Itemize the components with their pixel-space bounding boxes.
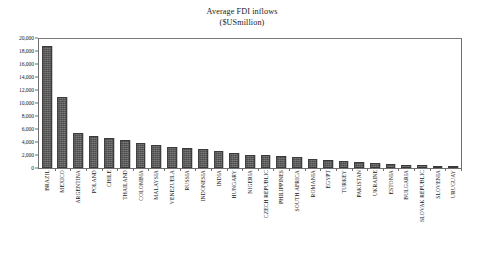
y-axis-tick-label: 18,000: [19, 48, 34, 54]
y-axis-tick-mark: [35, 90, 38, 91]
chart-container: Average FDI inflows ($USmillion) 02,0004…: [0, 0, 484, 255]
bar: [433, 166, 443, 168]
bar-slot: [70, 38, 86, 168]
bar-slot: [305, 38, 321, 168]
chart-title-block: Average FDI inflows ($USmillion): [0, 6, 484, 28]
y-axis-tick-mark: [35, 116, 38, 117]
bar-slot: [133, 38, 149, 168]
x-axis-tick-label: INDIA: [216, 170, 222, 186]
x-axis-tick-label: ESTONIA: [388, 170, 394, 195]
bar-slot: [242, 38, 258, 168]
x-axis-tick-label: VENEZUELA: [169, 170, 175, 204]
x-axis-tick-label: MALAYSIA: [153, 170, 159, 200]
bar-slot: [289, 38, 305, 168]
bar-slot: [102, 38, 118, 168]
bar: [89, 136, 99, 168]
bar: [323, 160, 333, 168]
bar-slot: [117, 38, 133, 168]
bar: [276, 156, 286, 168]
y-axis-tick-label: 10,000: [19, 100, 34, 106]
bar: [401, 165, 411, 168]
bar: [73, 133, 83, 168]
bar-slot: [195, 38, 211, 168]
y-axis-tick-mark: [35, 77, 38, 78]
bar-slot: [180, 38, 196, 168]
bar: [183, 148, 193, 168]
bar-slot: [398, 38, 414, 168]
bar: [308, 159, 318, 168]
bar: [104, 138, 114, 168]
y-axis-tick-label: 6,000: [22, 126, 34, 132]
y-axis-tick-mark: [35, 168, 38, 169]
x-axis-tick-label: CZECH REPUBLIC: [263, 170, 269, 218]
chart-subtitle: ($USmillion): [0, 17, 484, 28]
bar: [355, 162, 365, 168]
bar-series: [39, 38, 461, 168]
bar-slot: [445, 38, 461, 168]
x-axis-tick-label: URUGUAY: [450, 170, 456, 198]
bar-slot: [352, 38, 368, 168]
x-axis-tick-label: SLOVAK REPUBLIC: [419, 170, 425, 222]
y-axis-tick-mark: [35, 64, 38, 65]
bar-slot: [211, 38, 227, 168]
y-axis-tick-mark: [35, 38, 38, 39]
bar-slot: [227, 38, 243, 168]
y-axis-tick-mark: [35, 129, 38, 130]
x-axis-tick-label: TURKEY: [341, 170, 347, 193]
bar-slot: [86, 38, 102, 168]
x-axis-tick-label: POLAND: [91, 170, 97, 193]
x-axis-tick-label: SLOVENIA: [435, 170, 441, 199]
bar-slot: [320, 38, 336, 168]
x-axis-tick-label: UKRAINE: [372, 170, 378, 196]
bar-slot: [273, 38, 289, 168]
y-axis-tick-mark: [35, 103, 38, 104]
bar: [292, 157, 302, 168]
bar-slot: [336, 38, 352, 168]
bar: [214, 151, 224, 168]
bar: [42, 46, 52, 168]
x-axis-tick-label: ROMANIA: [310, 170, 316, 197]
y-axis-tick-label: 12,000: [19, 87, 34, 93]
x-axis-tick-label: COLOMBIA: [138, 170, 144, 201]
bar-slot: [414, 38, 430, 168]
bar: [136, 143, 146, 168]
x-axis-tick-label: MEXICO: [59, 170, 65, 193]
bar: [167, 147, 177, 168]
bar: [245, 155, 255, 168]
bar: [261, 155, 271, 168]
bar: [386, 164, 396, 168]
y-axis-tick-mark: [35, 51, 38, 52]
y-axis-tick-label: 14,000: [19, 74, 34, 80]
bar-slot: [383, 38, 399, 168]
x-axis-tick-label: BRAZIL: [44, 170, 50, 191]
x-axis-labels: BRAZILMEXICOARGENTINAPOLANDCHILETHAILAND…: [39, 170, 461, 255]
y-axis-tick-label: 0: [31, 165, 34, 171]
chart-title: Average FDI inflows: [0, 6, 484, 17]
x-axis-tick-label: EGYPT: [325, 170, 331, 189]
x-axis-tick-label: RUSSIA: [184, 170, 190, 191]
y-axis: 02,0004,0006,0008,00010,00012,00014,0001…: [0, 38, 38, 169]
bar-slot: [164, 38, 180, 168]
bar: [58, 97, 68, 168]
y-axis-tick-mark: [35, 155, 38, 156]
bar-slot: [55, 38, 71, 168]
x-axis-tick-label: PAKISTAN: [356, 170, 362, 198]
x-axis-tick-label: SOUTH AFRICA: [294, 170, 300, 211]
x-axis-tick-label: THAILAND: [122, 170, 128, 200]
y-axis-tick-mark: [35, 142, 38, 143]
x-axis-tick-label: HUNGARY: [231, 170, 237, 198]
y-axis-tick-label: 20,000: [19, 35, 34, 41]
x-axis-tick-mark: [461, 168, 462, 171]
bar: [151, 145, 161, 168]
x-axis-tick-label: NIGERIA: [247, 170, 253, 194]
bar: [448, 166, 458, 168]
x-axis-tick-label: INDONESIA: [200, 170, 206, 201]
y-axis-tick-label: 2,000: [22, 152, 34, 158]
bar: [230, 153, 240, 168]
x-axis-tick-label: PHILIPPINES: [278, 170, 284, 204]
bar: [198, 149, 208, 168]
bar-slot: [367, 38, 383, 168]
bar-slot: [148, 38, 164, 168]
bar-slot: [39, 38, 55, 168]
bar-slot: [258, 38, 274, 168]
